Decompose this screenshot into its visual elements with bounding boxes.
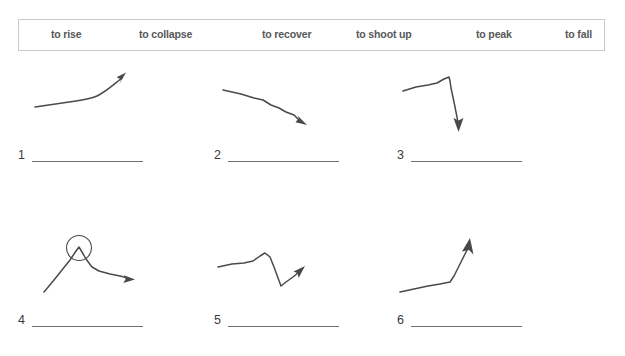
falling-line-sketch [208,62,398,142]
answer-blank-6[interactable] [411,326,522,327]
answer-number-6: 6 [397,313,404,327]
dip-and-recover-sketch [208,228,398,303]
answer-number-5: 5 [214,313,221,327]
answer-blank-3[interactable] [411,161,522,162]
shoot-up-sketch [392,228,582,303]
word-bank: to rise to collapse to recover to shoot … [18,19,605,51]
answer-blank-2[interactable] [228,161,339,162]
answer-row-3: 3 [397,148,527,168]
word-bank-item-6[interactable]: to fall [565,28,592,40]
word-bank-item-3[interactable]: to recover [262,28,311,40]
word-bank-item-4[interactable]: to shoot up [356,28,412,40]
word-bank-item-5[interactable]: to peak [476,28,512,40]
answer-number-2: 2 [214,148,221,162]
word-bank-item-2[interactable]: to collapse [139,28,192,40]
peak-circled-sketch [18,228,208,303]
answer-row-6: 6 [397,313,527,333]
answer-blank-1[interactable] [32,161,143,162]
answer-number-4: 4 [18,313,25,327]
sharp-drop-sketch [392,62,582,142]
answer-row-5: 5 [214,313,344,333]
rising-curve-sketch [18,62,208,142]
answer-number-1: 1 [18,148,25,162]
answer-row-4: 4 [18,313,148,333]
answer-row-2: 2 [214,148,344,168]
answer-blank-5[interactable] [228,326,339,327]
worksheet-page: to rise to collapse to recover to shoot … [0,0,625,356]
word-bank-item-1[interactable]: to rise [51,28,81,40]
answer-number-3: 3 [397,148,404,162]
answer-row-1: 1 [18,148,148,168]
answer-blank-4[interactable] [32,326,143,327]
